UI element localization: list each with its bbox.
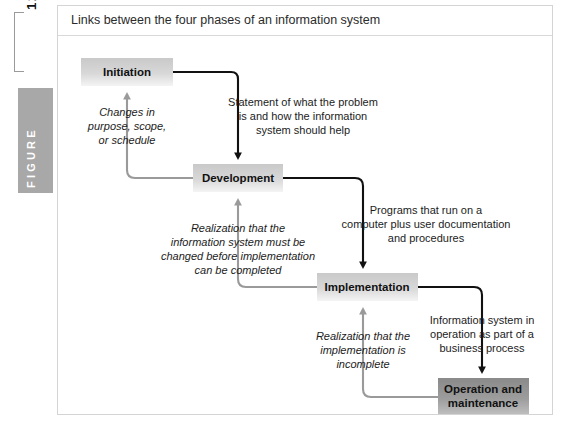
flow-label-line: system should help <box>256 124 350 136</box>
flow-label-implementation-to-operation: Information system in operation as part … <box>430 314 535 354</box>
feedback-label-line: purpose, scope, <box>87 120 166 132</box>
feedback-label-line: can be completed <box>195 264 283 276</box>
flow-label-line: is and how the information <box>239 110 367 122</box>
phase-flow-diagram: Initiation Development Implementation Op… <box>58 36 552 414</box>
node-initiation-label: Initiation <box>103 66 151 78</box>
flow-label-line: Programs that run on a <box>370 204 483 216</box>
feedback-label-development-to-initiation: Changes in purpose, scope, or schedule <box>87 106 166 146</box>
figure-frame: Links between the four phases of an info… <box>57 5 553 415</box>
flow-label-development-to-implementation: Programs that run on a computer plus use… <box>342 204 511 244</box>
feedback-label-line: information system must be <box>171 236 306 248</box>
feedback-label-line: Realization that the <box>316 330 410 342</box>
node-development[interactable]: Development <box>193 164 283 192</box>
figure-rail: 12.1 FIGURE <box>0 0 57 426</box>
feedback-label-line: or schedule <box>99 134 156 146</box>
flow-label-initiation-to-development: Statement of what the problem is and how… <box>228 96 378 136</box>
flow-label-line: computer plus user documentation <box>342 218 511 230</box>
diagram-canvas: Initiation Development Implementation Op… <box>58 36 552 414</box>
feedback-label-line: Changes in <box>99 106 155 118</box>
flow-label-line: and procedures <box>388 232 465 244</box>
feedback-label-line: changed before implementation <box>161 250 315 262</box>
flow-label-line: operation as part of a <box>430 328 535 340</box>
node-implementation-label: Implementation <box>325 281 410 293</box>
flow-label-line: Information system in <box>430 314 535 326</box>
node-operation-label-line2: maintenance <box>448 397 518 409</box>
flow-label-line: Statement of what the problem <box>228 96 378 108</box>
feedback-label-line: implementation is <box>320 344 406 356</box>
node-operation-label-line1: Operation and <box>444 383 522 395</box>
figure-title: Links between the four phases of an info… <box>58 6 552 35</box>
flow-label-line: business process <box>440 342 525 354</box>
node-implementation[interactable]: Implementation <box>317 273 418 301</box>
figure-number-text: 12.1 <box>24 0 50 10</box>
node-operation[interactable]: Operation and maintenance <box>438 378 529 414</box>
figure-number-bracket <box>14 12 24 72</box>
figure-word-box: FIGURE <box>18 88 53 193</box>
figure-number: 12.1 <box>14 6 54 84</box>
connector-initiation-to-development <box>173 72 238 156</box>
node-development-label: Development <box>202 172 274 184</box>
feedback-label-line: Realization that the <box>191 222 285 234</box>
node-initiation[interactable]: Initiation <box>81 58 173 86</box>
feedback-label-operation-to-implementation: Realization that the implementation is i… <box>316 330 410 370</box>
figure-word-text: FIGURE <box>25 78 47 188</box>
feedback-label-line: incomplete <box>336 358 389 370</box>
